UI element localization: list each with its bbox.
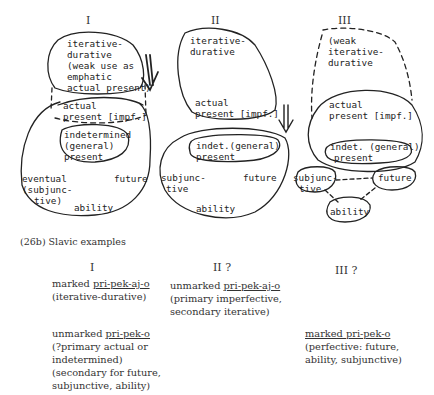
ex-col1-block2: unmarked pri-pek-o (?primary actual or i… [52,327,161,392]
d2-numeral: II [211,14,220,27]
d3-subjunctive-label: subjunc- tive [293,172,338,194]
d3-future-label: future [378,172,412,183]
ex-col3-numeral: III ? [335,264,357,277]
d1-indet-label: indetermined (general) present [64,129,131,162]
d3-ability-label: ability [330,206,369,217]
d2-actual-label: actual present [impf.] [195,97,279,119]
d1-future-label: future [114,173,148,184]
d1-ability-label: ability [74,202,113,213]
ex-col3-block1: marked pri-pek-o (perfective: future, ab… [305,327,402,366]
ex-col2-block1: unmarked pri-pek-aj-o (primary imperfect… [170,279,282,318]
d1-actual-label: actual present [impf.] [63,100,147,122]
d2-future-label: future [243,172,277,183]
d2-top-label: iterative- durative [190,35,246,57]
d2-indet-label: indet.(general) present [196,140,280,162]
d3-indet-label: indet. (general) present [330,141,420,163]
figure-caption: (26b) Slavic examples [20,236,126,247]
d2-ability-label: ability [196,203,235,214]
ex-col1-block1: marked pri-pek-aj-o (iterative-durative) [52,277,150,303]
ex-form: pri-pek-o [106,328,150,339]
d3-numeral: III [338,14,351,27]
ex-form: pri-pek-aj-o [224,280,281,291]
d2-subjunctive-label: subjunc- tive [161,172,206,194]
d3-actual-label: actual present [impf.] [329,99,413,121]
ex-col2-numeral: II ? [213,261,231,274]
d1-eventual-label: eventual (subjunc- tive) [22,173,72,206]
d1-numeral: I [86,14,90,27]
d2-arrow [279,105,293,132]
d1-top-label: iterative- durative (weak use as emphati… [67,38,151,93]
ex-form: pri-pek-aj-o [93,278,150,289]
d3-top-label: (weak iterative- durative [328,35,384,68]
ex-form: marked pri-pek-o [305,327,402,340]
ex-col1-numeral: I [90,261,94,274]
